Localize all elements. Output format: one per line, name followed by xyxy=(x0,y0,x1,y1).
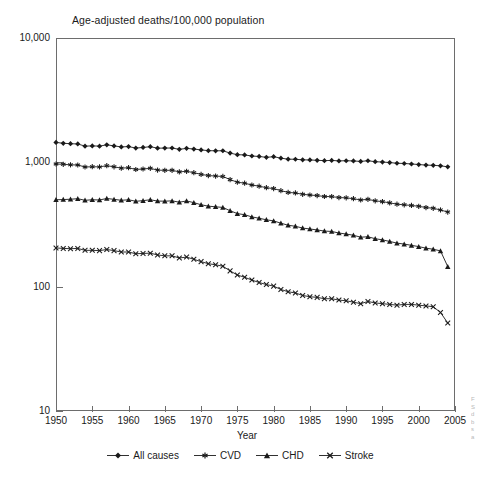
x-axis-title: Year xyxy=(0,430,480,441)
diamond-marker-icon xyxy=(365,158,370,163)
diamond-marker-icon xyxy=(111,143,116,148)
diamond-marker-icon xyxy=(300,157,305,162)
legend-item-cvd[interactable]: CVD xyxy=(193,450,241,461)
diamond-marker-icon xyxy=(228,151,233,156)
caption-line: a xyxy=(471,434,480,442)
diamond-marker-icon xyxy=(68,141,73,146)
diamond-marker-icon xyxy=(264,155,269,160)
diamond-marker-icon xyxy=(387,160,392,165)
diamond-marker-icon xyxy=(198,147,203,152)
diamond-marker-icon xyxy=(336,158,341,163)
diamond-marker-icon xyxy=(119,144,124,149)
diamond-marker-icon xyxy=(106,450,130,461)
diamond-marker-icon xyxy=(90,143,95,148)
x-marker-icon xyxy=(249,278,254,283)
diamond-marker-icon xyxy=(191,146,196,151)
x-marker-icon xyxy=(228,268,233,273)
legend-label: All causes xyxy=(133,450,179,461)
diamond-marker-icon xyxy=(220,148,225,153)
diamond-marker-icon xyxy=(431,163,436,168)
diamond-marker-icon xyxy=(445,164,450,169)
diamond-marker-icon xyxy=(115,453,121,459)
diamond-marker-icon xyxy=(169,145,174,150)
diamond-marker-icon xyxy=(184,146,189,151)
diamond-marker-icon xyxy=(249,153,254,158)
diamond-marker-icon xyxy=(242,152,247,157)
diamond-marker-icon xyxy=(82,144,87,149)
x-marker-icon xyxy=(257,280,262,285)
chart-figure: Age-adjusted deaths/100,000 population 1… xyxy=(0,0,480,484)
series-stroke xyxy=(54,246,451,326)
series-chd xyxy=(53,196,450,269)
diamond-marker-icon xyxy=(380,159,385,164)
diamond-marker-icon xyxy=(315,158,320,163)
diamond-marker-icon xyxy=(344,158,349,163)
diamond-marker-icon xyxy=(213,148,218,153)
chart-series-layer xyxy=(0,0,480,484)
legend-label: CVD xyxy=(220,450,241,461)
triangle-marker-icon xyxy=(255,450,279,461)
triangle-marker-icon xyxy=(235,211,240,216)
diamond-marker-icon xyxy=(329,158,334,163)
series-line xyxy=(56,198,448,266)
series-all-causes xyxy=(53,140,450,170)
x-marker-icon xyxy=(235,273,240,278)
diamond-marker-icon xyxy=(206,148,211,153)
x-marker-icon xyxy=(242,275,247,280)
triangle-marker-icon xyxy=(445,264,450,269)
legend-item-stroke[interactable]: Stroke xyxy=(318,450,374,461)
diamond-marker-icon xyxy=(373,159,378,164)
caption-line: F xyxy=(471,396,480,404)
diamond-marker-icon xyxy=(177,147,182,152)
triangle-marker-icon xyxy=(227,208,232,213)
clipped-caption-fragment: FSdbsa xyxy=(471,396,480,441)
diamond-marker-icon xyxy=(162,145,167,150)
diamond-marker-icon xyxy=(104,142,109,147)
diamond-marker-icon xyxy=(133,145,138,150)
diamond-marker-icon xyxy=(286,157,291,162)
x-axis-title-label: Year xyxy=(237,430,257,441)
caption-line: d xyxy=(471,411,480,419)
diamond-marker-icon xyxy=(438,163,443,168)
diamond-marker-icon xyxy=(351,158,356,163)
x-marker-icon xyxy=(318,450,342,461)
x-marker-icon xyxy=(278,287,283,292)
x-marker-icon xyxy=(199,259,204,264)
legend-label: Stroke xyxy=(345,450,374,461)
diamond-marker-icon xyxy=(394,161,399,166)
diamond-marker-icon xyxy=(126,144,131,149)
diamond-marker-icon xyxy=(257,154,262,159)
diamond-marker-icon xyxy=(53,140,58,145)
diamond-marker-icon xyxy=(423,163,428,168)
triangle-marker-icon xyxy=(184,198,189,203)
diamond-marker-icon xyxy=(155,146,160,151)
series-cvd xyxy=(54,161,450,214)
diamond-marker-icon xyxy=(307,157,312,162)
diamond-marker-icon xyxy=(271,154,276,159)
diamond-marker-icon xyxy=(235,152,240,157)
diamond-marker-icon xyxy=(402,161,407,166)
diamond-marker-icon xyxy=(61,141,66,146)
asterisk-marker-icon xyxy=(193,450,217,461)
diamond-marker-icon xyxy=(75,141,80,146)
x-marker-icon xyxy=(438,310,443,315)
series-line xyxy=(56,248,448,323)
asterisk-marker-icon xyxy=(228,177,233,182)
diamond-marker-icon xyxy=(97,144,102,149)
diamond-marker-icon xyxy=(278,156,283,161)
series-line xyxy=(56,164,448,212)
x-marker-icon xyxy=(445,321,450,326)
diamond-marker-icon xyxy=(322,158,327,163)
legend-item-chd[interactable]: CHD xyxy=(255,450,304,461)
diamond-marker-icon xyxy=(148,144,153,149)
caption-line: b xyxy=(471,419,480,427)
legend-item-all-causes[interactable]: All causes xyxy=(106,450,179,461)
diamond-marker-icon xyxy=(416,162,421,167)
diamond-marker-icon xyxy=(140,145,145,150)
caption-line: s xyxy=(471,426,480,434)
x-marker-icon xyxy=(191,257,196,262)
caption-line: S xyxy=(471,404,480,412)
diamond-marker-icon xyxy=(358,159,363,164)
diamond-marker-icon xyxy=(409,161,414,166)
chart-legend: All causesCVDCHDStroke xyxy=(0,450,480,461)
